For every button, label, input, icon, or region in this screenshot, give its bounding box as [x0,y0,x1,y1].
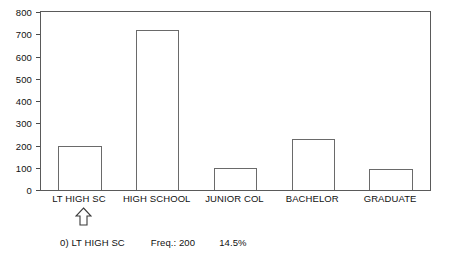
y-tick-mark [36,34,40,35]
y-tick-label: 300 [16,119,32,128]
y-tick-mark [36,57,40,58]
y-tick-label: 0 [27,186,32,195]
bar-chart: 0100200300400500600700800 LT HIGH SCHIGH… [0,0,453,260]
y-tick-mark [36,12,40,13]
bar-graduate[interactable] [369,169,413,190]
y-tick-label: 100 [16,163,32,172]
y-tick-mark [36,123,40,124]
y-tick-label: 600 [16,52,32,61]
y-tick-mark [36,168,40,169]
bar-bachelor[interactable] [292,139,336,190]
x-axis-labels: LT HIGH SCHIGH SCHOOLJUNIOR COLBACHELORG… [40,193,431,207]
y-tick-mark [36,79,40,80]
status-frequency: Freq.: 200 [151,237,195,248]
bar-lt-high-sc[interactable] [58,146,102,191]
up-arrow-icon [75,207,92,226]
bars-container [41,12,430,190]
x-tick-label: BACHELOR [273,193,351,204]
x-tick-label: HIGH SCHOOL [118,193,196,204]
x-tick-label: JUNIOR COL [196,193,274,204]
y-tick-mark [36,146,40,147]
y-tick-label: 700 [16,30,32,39]
status-category: 0) LT HIGH SC [60,237,125,248]
y-tick-label: 200 [16,141,32,150]
bar-high-school[interactable] [136,30,180,190]
y-tick-label: 400 [16,97,32,106]
y-axis: 0100200300400500600700800 [0,11,36,191]
bar-junior-col[interactable] [214,168,258,190]
y-tick-mark [36,190,40,191]
x-tick-label: GRADUATE [351,193,429,204]
status-percent: 14.5% [219,237,246,248]
y-tick-label: 800 [16,8,32,17]
status-caption: 0) LT HIGH SCFreq.: 20014.5% [60,237,247,248]
x-tick-label: LT HIGH SC [40,193,118,204]
y-tick-mark [36,101,40,102]
y-tick-label: 500 [16,74,32,83]
